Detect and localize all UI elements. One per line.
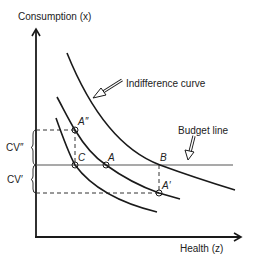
indifference-curve-annotation: Indifference curve <box>126 78 206 89</box>
point-b-label: B <box>160 152 167 163</box>
cv-double-prime-label: CV″ <box>6 142 24 153</box>
point-a-label: A <box>107 152 115 163</box>
upper-indifference-curve <box>67 53 235 190</box>
point-a-prime-label: A′ <box>161 180 172 191</box>
cv-prime-label: CV′ <box>7 174 23 185</box>
budget-line-arrow-icon <box>185 136 194 160</box>
indifference-curve-diagram: Consumption (x) Health (z) A″ C A B A′ C… <box>0 0 253 262</box>
y-axis-label: Consumption (x) <box>18 11 91 22</box>
point-a-double-prime-label: A″ <box>77 116 89 127</box>
budget-line-annotation: Budget line <box>178 125 228 136</box>
x-axis-label: Health (z) <box>180 243 223 254</box>
point-c-label: C <box>78 152 86 163</box>
indifference-curve-arrow-icon <box>93 80 122 98</box>
